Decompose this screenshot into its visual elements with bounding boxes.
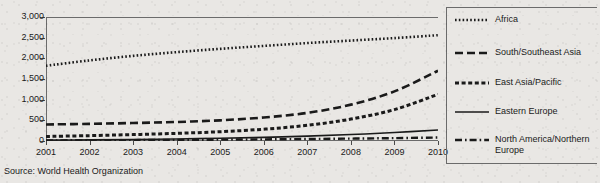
x-tick-mark (90, 141, 91, 145)
x-tick-label: 2004 (167, 147, 187, 157)
x-tick-label: 2009 (384, 147, 404, 157)
legend-swatch-solid-icon (455, 107, 489, 117)
x-tick-mark (46, 141, 47, 145)
x-tick-label: 2007 (297, 147, 317, 157)
legend-swatch-dotted-icon (455, 15, 489, 25)
y-tick-label: 3,000 (6, 12, 44, 21)
x-tick-mark (438, 141, 439, 145)
legend-item[interactable]: South/Southeast Asia (455, 47, 593, 58)
series-line (46, 71, 438, 125)
legend-item[interactable]: Eastern Europe (455, 106, 593, 117)
legend-label: Africa (495, 14, 518, 25)
legend-label: North America/Northern Europe (495, 134, 593, 156)
x-tick-mark (264, 141, 265, 145)
x-tick-mark (307, 141, 308, 145)
x-tick-mark (133, 141, 134, 145)
legend-item[interactable]: North America/Northern Europe (455, 134, 593, 156)
x-tick-label: 2010 (428, 147, 448, 157)
chart-figure: 05001,0001,5002,0002,5003,000 2001200220… (0, 0, 600, 183)
legend-item[interactable]: East Asia/Pacific (455, 77, 593, 88)
legend-label: Eastern Europe (495, 106, 558, 117)
legend-label: East Asia/Pacific (495, 77, 562, 88)
series-line (46, 35, 438, 66)
y-tick-label: 1,000 (6, 95, 44, 104)
legend-label: South/Southeast Asia (495, 47, 581, 58)
x-tick-label: 2001 (36, 147, 56, 157)
x-tick-label: 2005 (210, 147, 230, 157)
x-tick-label: 2002 (80, 147, 100, 157)
x-tick-mark (351, 141, 352, 145)
y-tick-label: 1,500 (6, 74, 44, 83)
y-tick-label: 0 (6, 136, 44, 145)
series-line (46, 94, 438, 136)
y-tick-label: 2,500 (6, 33, 44, 42)
x-tick-mark (394, 141, 395, 145)
plot-area (46, 17, 438, 141)
source-caption: Source: World Health Organization (4, 166, 143, 177)
x-tick-mark (220, 141, 221, 145)
legend-item[interactable]: Africa (455, 14, 593, 25)
legend-swatch-dash-dot-icon (455, 135, 489, 145)
y-tick-label: 2,000 (6, 53, 44, 62)
y-tick-label: 500 (6, 115, 44, 124)
x-tick-label: 2008 (341, 147, 361, 157)
x-axis: 2001200220032004200520062007200820092010 (46, 141, 438, 163)
x-tick-label: 2003 (123, 147, 143, 157)
chart-legend: AfricaSouth/Southeast AsiaEast Asia/Paci… (446, 7, 597, 164)
legend-swatch-dashed-short-icon (455, 78, 489, 88)
x-tick-label: 2006 (254, 147, 274, 157)
y-axis: 05001,0001,5002,0002,5003,000 (0, 0, 44, 158)
legend-swatch-dashed-long-icon (455, 48, 489, 58)
x-tick-mark (177, 141, 178, 145)
series-canvas (46, 17, 438, 141)
